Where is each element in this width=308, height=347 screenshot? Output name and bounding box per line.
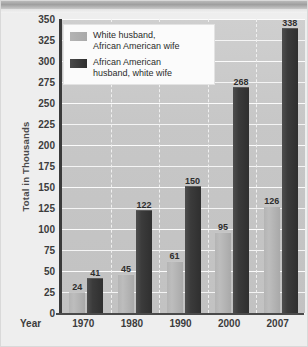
bar-value-label: 126 [264,196,279,206]
chart-figure: Total in Thousands 350325300275250225200… [0,0,308,347]
group-separator [256,19,257,313]
gridline [62,145,305,146]
bar: 126 [264,206,280,313]
y-axis-tick-label: 150 [19,182,55,193]
x-axis-tick-label: 2007 [267,318,289,329]
chart-legend: White husband, African American wife Afr… [63,24,215,85]
bar-value-label: 338 [282,18,297,28]
bar: 41 [87,278,103,313]
y-axis-tick-label: 50 [19,266,55,277]
legend-swatch-light-icon [70,32,87,41]
gridline [62,19,305,20]
bar: 45 [118,274,134,313]
legend-item-white-husband: White husband, African American wife [70,30,207,52]
legend-swatch-dark-icon [70,59,87,68]
y-axis-tick-label: 300 [19,56,55,67]
x-axis-title: Year [20,318,41,329]
gridline [62,103,305,104]
legend-item-label: African American husband, white wife [93,57,172,79]
bar: 61 [167,261,183,313]
bar: 150 [185,186,201,313]
bar-value-label: 41 [90,268,100,278]
x-axis-tick-label: 1980 [121,318,143,329]
y-axis-tick-label: 350 [19,14,55,25]
y-axis-tick-label: 275 [19,77,55,88]
x-axis-tick-label: 1990 [169,318,191,329]
bar: 95 [215,232,231,313]
bar: 268 [233,87,249,313]
bar-value-label: 122 [136,200,151,210]
y-axis-tick-labels: 3503253002752502252001751501251007550250 [19,1,55,347]
bar: 338 [282,28,298,313]
x-axis-tick-label: 1970 [72,318,94,329]
y-axis-tick-label: 325 [19,35,55,46]
bar: 24 [69,292,85,313]
y-axis-tick-label: 75 [19,245,55,256]
bar-value-label: 95 [218,222,228,232]
gridline [62,187,305,188]
bar-value-label: 150 [185,176,200,186]
x-axis-tick-labels: 19701980199020002007 [59,316,305,338]
y-axis-tick-label: 250 [19,98,55,109]
y-axis-tick-label: 175 [19,161,55,172]
y-axis-tick-label: 125 [19,203,55,214]
bar: 122 [136,210,152,313]
y-axis-tick-label: 100 [19,224,55,235]
y-axis-tick-label: 225 [19,119,55,130]
legend-item-label: White husband, African American wife [93,30,180,52]
x-axis-tick-label: 2000 [218,318,240,329]
y-axis-tick-label: 0 [19,308,55,319]
bar-value-label: 45 [121,264,131,274]
bar-value-label: 268 [234,77,249,87]
bar-value-label: 24 [72,282,82,292]
gridline [62,124,305,125]
gridline [62,166,305,167]
y-axis-tick-label: 25 [19,287,55,298]
y-axis-tick-label: 200 [19,140,55,151]
bar-value-label: 61 [169,251,179,261]
x-axis-line [56,313,304,315]
legend-item-african-american-husband: African American husband, white wife [70,57,207,79]
